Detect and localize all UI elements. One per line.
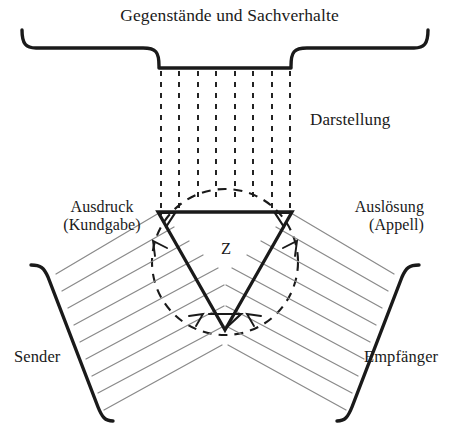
label-expression: Ausdruck (Kundgabe) xyxy=(46,198,158,234)
label-receiver: Empfänger xyxy=(364,348,438,366)
label-representation: Darstellung xyxy=(310,110,390,129)
label-appeal-main: Auslösung xyxy=(300,198,430,216)
label-appeal: Auslösung (Appell) xyxy=(300,198,430,234)
label-expression-alt: (Kundgabe) xyxy=(46,216,158,234)
sign-triangle xyxy=(158,212,292,330)
arrow-mark-bottom-left xyxy=(189,314,203,326)
label-objects-and-states: Gegenstände und Sachverhalte xyxy=(0,6,459,26)
sender-brace xyxy=(31,265,113,421)
arrow-mark-bottom-right xyxy=(247,314,261,326)
label-appeal-alt: (Appell) xyxy=(300,216,430,234)
receiver-brace xyxy=(337,265,419,421)
label-sign: Z xyxy=(200,240,252,258)
organon-model-diagram: Gegenstände und Sachverhalte Darstellung… xyxy=(0,0,459,443)
representation-dashed-lines xyxy=(161,71,290,215)
label-sender: Sender xyxy=(14,348,60,366)
label-expression-main: Ausdruck xyxy=(46,198,158,216)
top-brace xyxy=(22,30,428,68)
